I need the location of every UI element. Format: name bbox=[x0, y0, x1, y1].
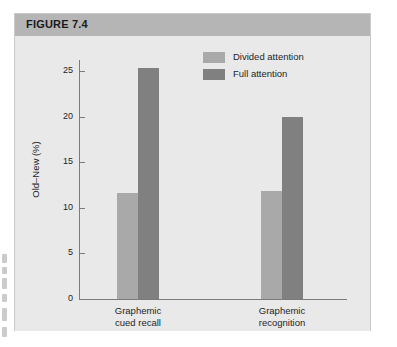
bar-divided-attention bbox=[117, 193, 138, 299]
x-axis-category-label-line: Graphemic bbox=[83, 305, 193, 317]
legend-label: Divided attention bbox=[233, 50, 304, 64]
y-axis-tick-mark bbox=[80, 117, 85, 118]
x-axis-category-label: Graphemicrecognition bbox=[227, 305, 337, 328]
x-axis-category-label: Graphemiccued recall bbox=[83, 305, 193, 328]
y-axis-tick-label: 20 bbox=[33, 112, 73, 121]
y-axis-tick-mark bbox=[80, 71, 85, 72]
legend-swatch-full-attention bbox=[203, 69, 225, 80]
x-axis-line bbox=[79, 299, 347, 300]
y-axis-tick-mark bbox=[80, 208, 85, 209]
x-axis-category-label-line: recognition bbox=[227, 317, 337, 329]
y-axis-tick-mark bbox=[80, 299, 85, 300]
bar-full-attention bbox=[138, 68, 159, 299]
y-axis-tick-mark bbox=[80, 253, 85, 254]
y-axis-tick-mark bbox=[80, 162, 85, 163]
x-axis-category-label-line: Graphemic bbox=[227, 305, 337, 317]
figure-container: FIGURE 7.4 Old–New (%) 0510152025 Graphe… bbox=[14, 13, 371, 331]
y-axis-tick-label: 25 bbox=[33, 66, 73, 75]
legend-swatch-divided-attention bbox=[203, 52, 225, 63]
y-axis-tick-label: 10 bbox=[33, 203, 73, 212]
scan-edge-artifacts bbox=[0, 252, 9, 344]
legend-label: Full attention bbox=[233, 67, 287, 81]
bar-divided-attention bbox=[261, 191, 282, 299]
bar-chart: Old–New (%) 0510152025 Graphemiccued rec… bbox=[15, 14, 372, 332]
bar-full-attention bbox=[282, 117, 303, 299]
y-axis-tick-label: 5 bbox=[33, 248, 73, 257]
x-axis-category-label-line: cued recall bbox=[83, 317, 193, 329]
y-axis-tick-label: 15 bbox=[33, 157, 73, 166]
y-axis-line bbox=[79, 60, 80, 299]
y-axis-tick-label: 0 bbox=[33, 294, 73, 303]
